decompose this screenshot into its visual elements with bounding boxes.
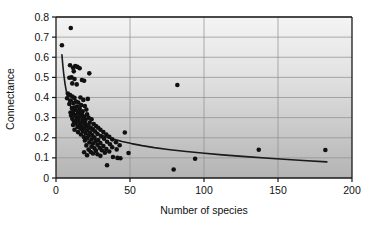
- data-point: [82, 150, 87, 155]
- y-tick-label: 0.4: [34, 91, 49, 103]
- data-point: [256, 148, 261, 153]
- data-point: [83, 138, 88, 143]
- data-point: [115, 156, 120, 161]
- data-point: [86, 97, 91, 102]
- data-point: [95, 152, 100, 157]
- data-point: [71, 123, 76, 128]
- data-point: [84, 143, 89, 148]
- data-point: [77, 66, 82, 71]
- y-tick-label: 0.2: [34, 131, 49, 143]
- data-point: [71, 69, 76, 74]
- data-point: [82, 79, 87, 84]
- data-point: [175, 83, 180, 88]
- data-point: [111, 155, 116, 160]
- y-tick-label: 0.8: [34, 11, 49, 23]
- y-tick-label: 0.7: [34, 31, 49, 43]
- x-tick-label: 0: [53, 184, 59, 196]
- data-point: [126, 151, 131, 156]
- x-tick-label: 100: [195, 184, 213, 196]
- data-point: [123, 130, 128, 135]
- data-point: [74, 82, 79, 87]
- data-point: [117, 143, 122, 148]
- data-point: [114, 140, 119, 145]
- y-axis-title: Connectance: [4, 68, 16, 130]
- chart-figure: 00.10.20.30.40.50.60.70.8 050100150200 N…: [0, 0, 374, 226]
- y-tick-label: 0.6: [34, 51, 49, 63]
- y-tick-label: 0: [43, 172, 49, 184]
- scatter-plot: 00.10.20.30.40.50.60.70.8 050100150200 N…: [0, 0, 374, 226]
- x-tick-label: 150: [269, 184, 287, 196]
- data-point: [193, 156, 198, 161]
- data-point: [87, 71, 92, 76]
- data-point: [105, 163, 110, 168]
- data-point: [107, 149, 112, 154]
- data-point: [91, 151, 96, 156]
- data-point: [70, 81, 75, 86]
- data-point: [67, 102, 72, 107]
- data-point: [114, 147, 119, 152]
- data-point: [60, 43, 65, 48]
- y-tick-label: 0.5: [34, 71, 49, 83]
- y-axis-ticks: 00.10.20.30.40.50.60.70.8: [34, 11, 56, 184]
- data-point: [110, 137, 115, 142]
- data-point: [103, 150, 108, 155]
- y-tick-label: 0.1: [34, 151, 49, 163]
- x-axis-title: Number of species: [160, 204, 248, 216]
- x-tick-label: 50: [124, 184, 136, 196]
- y-tick-label: 0.3: [34, 111, 49, 123]
- data-point: [72, 77, 77, 82]
- data-point: [323, 148, 328, 153]
- data-point: [110, 145, 115, 150]
- data-point: [171, 167, 176, 172]
- data-point: [81, 98, 86, 103]
- data-point: [69, 26, 74, 31]
- x-tick-label: 200: [343, 184, 361, 196]
- data-point: [71, 101, 76, 106]
